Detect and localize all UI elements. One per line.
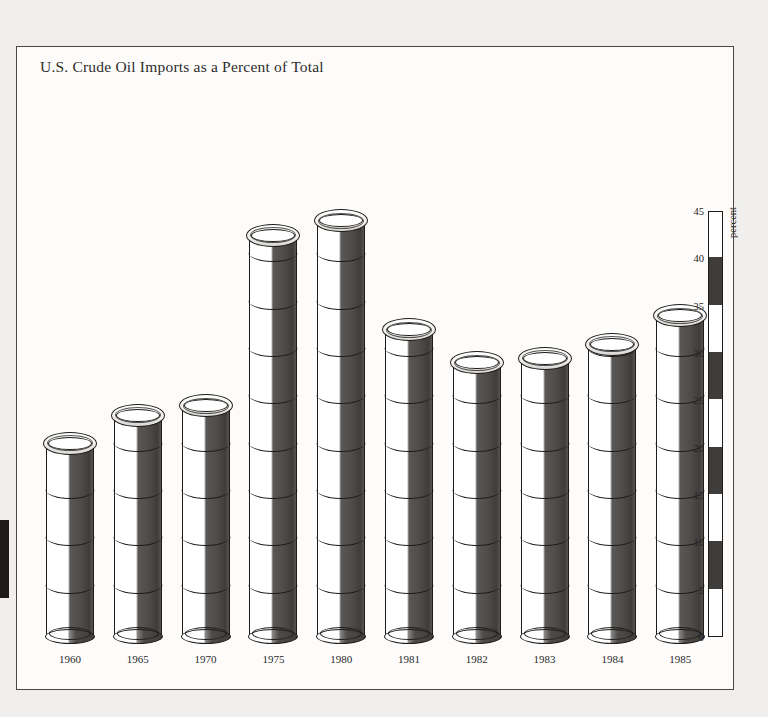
bar-body (385, 329, 433, 637)
plot-area: 1960196519701975198019811982198319841985… (16, 46, 734, 690)
bar-cylinder (656, 315, 704, 637)
bar-body (317, 220, 365, 637)
bar-base-rim (524, 627, 566, 640)
bar-base-rim (456, 627, 498, 640)
x-axis-label-1983: 1983 (534, 653, 556, 665)
y-axis-scale-bar (708, 211, 723, 637)
bar-1970: 1970 (182, 405, 230, 637)
x-axis-label-1965: 1965 (127, 653, 149, 665)
bar-top-rim (179, 394, 233, 417)
bar-top-bore (184, 399, 228, 412)
bar-1965: 1965 (114, 415, 162, 637)
bar-top-bore (116, 409, 160, 422)
bar-top-rim (246, 224, 300, 247)
bar-1960: 1960 (46, 443, 94, 637)
y-axis-tick-45: 45 (694, 206, 705, 217)
bar-top-bore (590, 338, 634, 351)
page-background: U.S. Crude Oil Imports as a Percent of T… (0, 0, 768, 717)
y-axis-tick-15: 15 (694, 490, 705, 501)
y-axis-segment (709, 305, 722, 352)
x-axis-label-1960: 1960 (59, 653, 81, 665)
bar-top-bore (48, 437, 92, 450)
bar-top-rim (518, 347, 572, 370)
y-axis-tick-20: 20 (694, 442, 705, 453)
bar-body (521, 358, 569, 637)
bar-cylinder (588, 344, 636, 637)
bar-top-rim (43, 432, 97, 455)
y-axis-tick-5: 5 (699, 584, 704, 595)
bar-top-bore (523, 352, 567, 365)
y-axis-tick-30: 30 (694, 348, 705, 359)
bar-cylinder (114, 415, 162, 637)
bar-1982: 1982 (453, 362, 501, 637)
x-axis-label-1975: 1975 (262, 653, 284, 665)
bar-cylinder (521, 358, 569, 637)
x-axis-label-1984: 1984 (601, 653, 623, 665)
bar-top-rim (585, 333, 639, 356)
y-axis-caption: percent (727, 207, 738, 238)
bar-body (114, 415, 162, 637)
bar-1981: 1981 (385, 329, 433, 637)
bar-top-rim (111, 404, 165, 427)
y-axis-segment (709, 589, 722, 636)
y-axis-tick-25: 25 (694, 395, 705, 406)
bar-cylinder (317, 220, 365, 637)
bar-body (588, 344, 636, 637)
y-axis-tick-10: 10 (694, 537, 705, 548)
bar-1983: 1983 (521, 358, 569, 637)
y-axis-segment (709, 447, 722, 494)
bar-body (453, 362, 501, 637)
x-axis-label-1981: 1981 (398, 653, 420, 665)
x-axis-label-1980: 1980 (330, 653, 352, 665)
bar-1984: 1984 (588, 344, 636, 637)
bar-base-rim (388, 627, 430, 640)
bar-cylinder (182, 405, 230, 637)
y-axis-segment (709, 399, 722, 446)
bar-base-rim (117, 627, 159, 640)
bar-top-bore (251, 229, 295, 242)
bar-1985: 1985 (656, 315, 704, 637)
bar-1980: 1980 (317, 220, 365, 637)
scan-edge-artifact (0, 520, 9, 598)
bar-base-rim (185, 627, 227, 640)
bar-body (249, 235, 297, 637)
bar-cylinder (453, 362, 501, 637)
bar-1975: 1975 (249, 235, 297, 637)
y-axis-segment (709, 494, 722, 541)
y-axis-tick-0: 0 (699, 632, 704, 643)
x-axis-label-1985: 1985 (669, 653, 691, 665)
bar-cylinder (249, 235, 297, 637)
bar-base-rim (659, 627, 701, 640)
y-axis-segment (709, 541, 722, 588)
x-axis-label-1982: 1982 (466, 653, 488, 665)
y-axis-segment (709, 352, 722, 399)
bar-body (656, 315, 704, 637)
bar-base-rim (49, 627, 91, 640)
bar-body (182, 405, 230, 637)
x-axis-label-1970: 1970 (195, 653, 217, 665)
y-axis-ruler: 051015202530354045percent (708, 211, 723, 637)
y-axis-tick-40: 40 (694, 253, 705, 264)
bar-cylinder (385, 329, 433, 637)
y-axis-segment (709, 257, 722, 304)
bar-body (46, 443, 94, 637)
y-axis-tick-35: 35 (694, 300, 705, 311)
bar-cylinder (46, 443, 94, 637)
y-axis-segment (709, 211, 722, 257)
bar-base-rim (320, 627, 362, 640)
